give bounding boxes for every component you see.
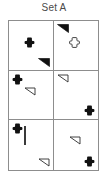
grid-cell-4 [54,71,99,121]
grid-cell-1 [9,21,54,71]
white-cross-icon [69,37,80,48]
black-cross-icon [84,156,95,167]
white-triangle-icon [38,158,50,167]
white-triangle-icon [57,74,69,83]
black-triangle-icon [57,24,69,33]
white-triangle-icon [69,136,81,145]
black-triangle-icon [38,58,50,67]
set-a-figure: Set A [0,0,108,176]
black-cross-icon [24,37,35,48]
black-cross-icon [12,123,23,134]
white-triangle-icon [24,87,36,96]
grid-cell-5 [9,120,54,170]
black-cross-icon [12,74,23,85]
grid-cell-6 [54,120,99,170]
grid-cell-3 [9,71,54,121]
black-cross-icon [84,105,95,116]
page-title: Set A [0,2,108,14]
shape-grid [8,20,99,171]
grid-cell-2 [54,21,99,71]
